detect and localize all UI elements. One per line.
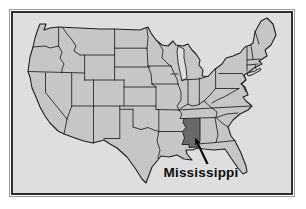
us-landmass xyxy=(28,18,276,183)
map-frame: Mississippi xyxy=(11,11,293,195)
page: Mississippi xyxy=(0,0,306,209)
mississippi-label: Mississippi xyxy=(143,165,259,180)
